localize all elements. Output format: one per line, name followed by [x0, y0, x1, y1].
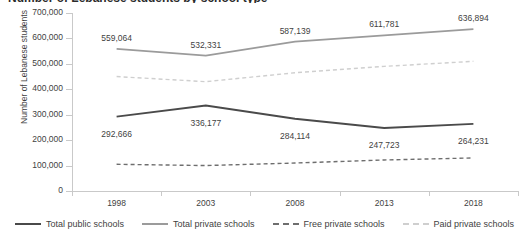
x-axis-tick-mark [340, 191, 341, 196]
legend-swatch-icon [403, 223, 429, 225]
y-axis-tick-label: 0 [58, 185, 63, 195]
legend-swatch-icon [15, 223, 41, 225]
y-axis-tick-label: 100,000 [32, 160, 63, 170]
x-axis-tick-label: 2008 [286, 198, 305, 208]
x-axis-tick-label: 2018 [464, 198, 483, 208]
data-point-label: 264,231 [458, 136, 489, 146]
series-line [117, 158, 474, 166]
legend-swatch-icon [273, 223, 299, 225]
plot-area [72, 13, 518, 191]
y-axis-tick-label: 700,000 [32, 7, 63, 17]
data-point-label: 587,139 [280, 26, 311, 36]
legend-label: Free private schools [304, 219, 385, 229]
legend-item[interactable]: Free private schools [273, 216, 385, 231]
x-axis-tick-label: 2003 [196, 198, 215, 208]
y-axis-tick-label: 600,000 [32, 32, 63, 42]
series-line [117, 106, 474, 128]
x-axis-tick-mark [429, 191, 430, 196]
x-axis-tick-mark [518, 191, 519, 196]
data-point-label: 292,666 [101, 129, 132, 139]
y-axis-tick-label: 200,000 [32, 134, 63, 144]
data-point-label: 247,723 [369, 140, 400, 150]
data-point-label: 611,781 [369, 19, 399, 29]
x-axis-tick-label: 1998 [107, 198, 126, 208]
chart-title: Number of Lebanese students by school ty… [8, 0, 338, 3]
legend-swatch-icon [142, 223, 168, 225]
legend-item[interactable]: Total private schools [142, 216, 255, 231]
data-point-label: 559,064 [101, 33, 132, 43]
chart-legend: Total public schoolsTotal private school… [0, 216, 529, 231]
y-axis-tick-label: 500,000 [32, 58, 63, 68]
data-point-label: 336,177 [190, 118, 221, 128]
x-axis-line [72, 191, 518, 192]
legend-label: Total private schools [173, 219, 255, 229]
x-axis-tick-mark [72, 191, 73, 196]
legend-label: Paid private schools [434, 219, 515, 229]
x-axis-tick-label: 2013 [375, 198, 394, 208]
y-axis-title: Number of Lebanese students [19, 0, 29, 147]
legend-label: Total public schools [46, 219, 124, 229]
x-axis-tick-mark [250, 191, 251, 196]
x-axis-tick-mark [161, 191, 162, 196]
line-chart: Number of Lebanese students by school ty… [0, 0, 529, 249]
y-axis-tick-label: 400,000 [32, 83, 63, 93]
legend-item[interactable]: Total public schools [15, 216, 124, 231]
data-point-label: 284,114 [280, 131, 310, 141]
y-axis-tick-label: 300,000 [32, 109, 63, 119]
series-line [117, 61, 474, 81]
legend-item[interactable]: Paid private schools [403, 216, 515, 231]
data-point-label: 636,894 [458, 13, 489, 23]
data-point-label: 532,331 [190, 40, 221, 50]
